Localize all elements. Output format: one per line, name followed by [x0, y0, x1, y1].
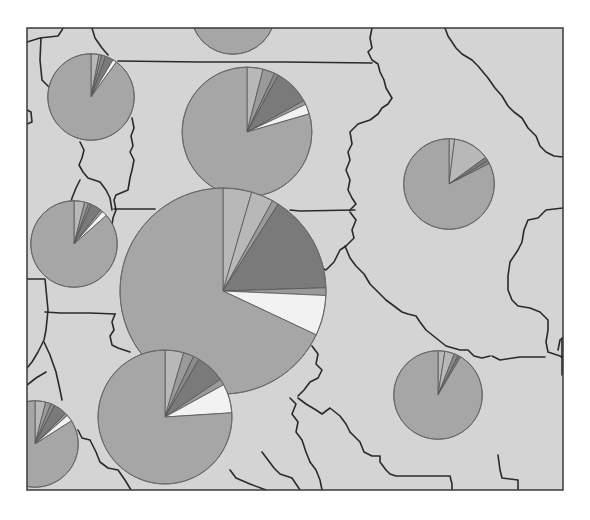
pie-west	[31, 201, 118, 288]
map-canvas	[0, 0, 590, 520]
map-area	[0, 0, 563, 490]
pie-southwest-partial	[0, 401, 78, 488]
pie-northwest	[48, 54, 135, 141]
pie-southeast	[394, 351, 483, 440]
pie-north-center	[182, 67, 312, 197]
pie-east	[404, 139, 495, 230]
pie-south-center	[98, 350, 232, 484]
